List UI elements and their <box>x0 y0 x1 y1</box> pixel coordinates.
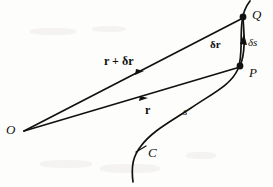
vector-label-r-plus-delta-r: r + δr <box>104 55 134 67</box>
diagram-svg <box>0 0 273 187</box>
vector-r-plus-delta-r-line <box>24 18 243 131</box>
point-q-dot <box>240 14 247 21</box>
arc-length-label-s: s <box>183 106 187 117</box>
point-label-q: Q <box>252 8 261 21</box>
vector-r-line <box>24 67 240 131</box>
point-label-o: O <box>6 123 15 136</box>
vector-r-arrowhead <box>139 96 148 101</box>
figure-canvas: O P Q C s r r + δr δr δs <box>0 0 273 187</box>
delta-r-label: δr <box>210 39 221 50</box>
vector-label-r: r <box>145 104 150 116</box>
point-label-p: P <box>249 66 257 79</box>
curve-label-c: C <box>148 146 157 159</box>
delta-s-label: δs <box>248 37 257 48</box>
point-p-dot <box>237 63 244 70</box>
